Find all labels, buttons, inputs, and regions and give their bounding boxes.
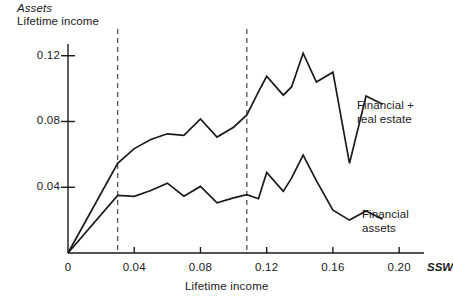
series-label-financial-assets-line2: assets [362,222,396,234]
x-axis-caption: Lifetime income [185,280,269,292]
series-label-financial-assets-line1: Financial [362,208,409,220]
x-tick-label-5: 0.20 [376,261,422,273]
x-tick-label-4: 0.16 [310,261,356,273]
y-tick-label-0: 0.04 [16,180,60,192]
series-label-financial-real-estate-line1: Financial + [357,99,414,111]
y-tick-label-2: 0.12 [16,49,60,61]
series-line-0 [68,53,383,253]
y-axis-label-denominator: Lifetime income [17,15,99,28]
series-label-financial-assets: Financial assets [362,208,409,235]
x-tick-label-2: 0.08 [177,261,223,273]
x-axis-variable-label: SSW [427,261,453,273]
series-label-financial-real-estate: Financial + real estate [357,99,414,126]
series-line-1 [68,155,383,253]
y-tick-label-1: 0.08 [16,114,60,126]
x-tick-label-3: 0.12 [244,261,290,273]
x-tick-label-0: 0 [45,261,91,273]
y-axis-label: Assets Lifetime income [17,2,99,28]
y-axis-label-numerator: Assets [17,2,99,15]
series-label-financial-real-estate-line2: real estate [357,113,412,125]
x-tick-label-1: 0.04 [111,261,157,273]
series-lines [68,53,383,253]
reference-lines [118,29,247,253]
